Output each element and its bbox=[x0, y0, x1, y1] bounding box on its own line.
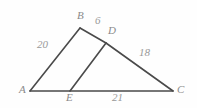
measure-label-EC: 21 bbox=[112, 92, 123, 103]
geometry-figure: A B C D E 20 6 18 21 bbox=[0, 0, 197, 108]
measure-label-BD: 6 bbox=[95, 15, 101, 26]
vertex-label-A: A bbox=[19, 84, 26, 95]
vertex-label-C: C bbox=[177, 84, 184, 95]
vertex-label-E: E bbox=[66, 92, 73, 103]
segments-group bbox=[30, 28, 173, 91]
segment-BD bbox=[80, 28, 106, 43]
segment-ED bbox=[70, 43, 106, 91]
vertex-label-B: B bbox=[77, 10, 84, 21]
measure-label-DC: 18 bbox=[139, 47, 150, 58]
measure-label-AB: 20 bbox=[37, 39, 48, 50]
vertex-label-D: D bbox=[108, 25, 116, 36]
